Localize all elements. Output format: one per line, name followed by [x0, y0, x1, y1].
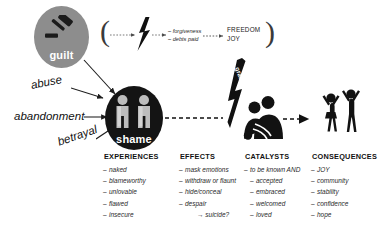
shame-label: shame [105, 133, 163, 145]
guilt-result-1: JOY [227, 35, 260, 44]
bullet-dash: – [103, 198, 107, 209]
list-item-label: flawed [109, 200, 128, 207]
list-item-label: insecure [109, 211, 134, 218]
list-item-label: loved [256, 211, 272, 218]
dotted-arrow-to-outcomes [152, 30, 168, 40]
bullet-dash: – [311, 209, 315, 220]
column-effects: EFFECTS –mask emotions –withdraw or flau… [180, 152, 236, 220]
guilt-outcome-0: – forgiveness [168, 27, 201, 35]
column-heading: CATALYSTS [245, 152, 300, 161]
list-item-label: embraced [256, 188, 285, 195]
bullet-dash: – [250, 186, 254, 197]
bullet-dash: – [103, 175, 107, 186]
guilt-outcome-1: – debts paid [168, 35, 201, 43]
list-item: –confidence [312, 198, 377, 209]
list-item: –community [312, 175, 377, 186]
shame-node: shame [105, 86, 163, 150]
column-consequences: CONSEQUENCES –JOY –community –stability … [312, 152, 377, 220]
dotted-arrow-to-results [203, 31, 225, 41]
bullet-dash: – [103, 164, 107, 175]
cause-label-betrayal: betrayal [56, 123, 99, 148]
bullet-dash: – [103, 209, 107, 220]
list-item-label: hope [317, 211, 331, 218]
list-item-label: confidence [317, 200, 348, 207]
column-list: –JOY –community –stability –confidence –… [312, 164, 377, 220]
bullet-dash: – [250, 209, 254, 220]
bullet-dash: – [250, 175, 254, 186]
list-item-label: stability [317, 188, 339, 195]
list-item-label: hide/conceal [185, 188, 222, 195]
embracing-figures-icon [242, 95, 286, 140]
list-item: –unlovable [104, 186, 159, 197]
list-item: –insecure [104, 209, 159, 220]
column-experiences: EXPERIENCES –naked –blameworthy –unlovab… [104, 152, 159, 220]
list-item: –mask emotions [180, 164, 236, 175]
bullet-dash: – [311, 186, 315, 197]
bullet-dash: – [179, 198, 183, 209]
gavel-icon [45, 15, 78, 45]
cause-label-abandonment: abandonment [14, 110, 84, 122]
list-item-label: to be known AND [250, 166, 300, 173]
column-heading: CONSEQUENCES [312, 152, 377, 161]
list-item: –to be known AND [245, 164, 300, 175]
guilt-outcomes: – forgiveness – debts paid [168, 27, 201, 44]
guilt-result-0: FREEDOM [227, 26, 260, 35]
list-item: –loved [245, 209, 300, 220]
guilt-label: guilt [34, 49, 89, 61]
list-item-label: unlovable [109, 188, 137, 195]
column-heading: EXPERIENCES [104, 152, 159, 161]
bullet-dash: – [244, 164, 248, 175]
list-item: –welcomed [245, 198, 300, 209]
bullet-dash: – [179, 164, 183, 175]
celebrating-figures-icon [318, 85, 368, 141]
diagram-canvas: guilt ( – forgiveness – debts paid [0, 0, 392, 231]
list-item-label: blameworthy [109, 177, 146, 184]
list-sub-item: → suicide? [180, 209, 236, 220]
cause-label-abuse: abuse [30, 73, 63, 91]
list-item-label: despair [185, 200, 206, 207]
two-figures-icon [114, 94, 155, 138]
list-item: –JOY [312, 164, 377, 175]
list-item: –stability [312, 186, 377, 197]
dashed-arrow-shame-to-grace [165, 113, 227, 123]
list-item-label: naked [109, 166, 127, 173]
guilt-node: guilt [34, 6, 89, 68]
column-list: –naked –blameworthy –unlovable –flawed –… [104, 164, 159, 220]
list-item: –hide/conceal [180, 186, 236, 197]
open-paren: ( [100, 16, 110, 46]
list-item-label: welcomed [256, 200, 285, 207]
close-paren: ) [265, 17, 275, 47]
arrow-abuse [71, 84, 109, 104]
bullet-dash: – [103, 186, 107, 197]
list-sub-item-label: → suicide? [197, 211, 229, 218]
column-list: –to be known AND –accepted –embraced –we… [245, 164, 300, 220]
bullet-dash: – [311, 198, 315, 209]
lightning-bolt-icon [136, 17, 152, 51]
list-item: –withdraw or flaunt [180, 175, 236, 186]
bullet-dash: – [179, 175, 183, 186]
guilt-results: FREEDOM JOY [227, 26, 260, 43]
bullet-dash: – [179, 186, 183, 197]
dashed-arrow-to-celebration [283, 112, 315, 126]
bullet-dash: – [250, 198, 254, 209]
list-item: –naked [104, 164, 159, 175]
column-list: –mask emotions –withdraw or flaunt –hide… [180, 164, 236, 220]
bullet-dash: – [311, 175, 315, 186]
bullet-dash: – [311, 164, 315, 175]
list-item: –embraced [245, 186, 300, 197]
list-item-label: accepted [256, 177, 282, 184]
list-item: –flawed [104, 198, 159, 209]
list-item-label: mask emotions [185, 166, 229, 173]
list-item: –blameworthy [104, 175, 159, 186]
list-item: –despair [180, 198, 236, 209]
list-item: –accepted [245, 175, 300, 186]
dotted-arrow-to-bolt [110, 30, 138, 40]
list-item-label: community [317, 177, 348, 184]
list-item-label: withdraw or flaunt [185, 177, 236, 184]
column-catalysts: CATALYSTS –to be known AND –accepted –em… [245, 152, 300, 220]
list-item: –hope [312, 209, 377, 220]
column-heading: EFFECTS [180, 152, 236, 161]
list-item-label: JOY [317, 166, 330, 173]
